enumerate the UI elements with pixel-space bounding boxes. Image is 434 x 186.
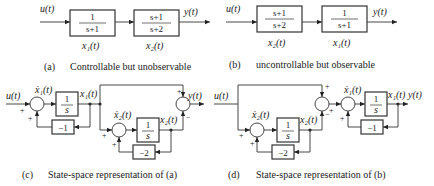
diagram-d: u(t) + + ẋ₂(t) 1 s x₂(t) − −2 +: [214, 82, 423, 181]
svg-text:+: +: [102, 131, 107, 140]
x1dot-label: ẋ₁(t): [34, 84, 53, 96]
block2-numerator: s+1: [150, 12, 163, 22]
caption-tag-d: (d): [228, 169, 240, 181]
svg-text:+: +: [239, 131, 244, 140]
state-label-x1: x₁(t): [332, 37, 351, 49]
output-label-c: y(t): [187, 90, 203, 102]
block2-numerator: 1: [342, 8, 347, 18]
diagram-canvas: u(t) 1 s+1 x₁(t) s+1 s+2 x₂(t) y(t) (a) …: [0, 0, 434, 186]
svg-text:+: +: [325, 82, 330, 91]
input-summing-junction: [315, 97, 329, 111]
svg-text:s: s: [286, 130, 290, 141]
block2-denominator: s+1: [338, 20, 351, 30]
output-label-b: y(t): [372, 6, 388, 18]
svg-text:s: s: [65, 104, 69, 115]
caption-tag-b: (b): [229, 59, 241, 71]
svg-text:+: +: [340, 114, 345, 123]
svg-text:+: +: [112, 140, 117, 149]
block1-numerator: 1: [90, 12, 95, 22]
diagram-b: u(t) s+1 s+2 x₂(t) 1 s+1 x₁(t) y(t) (b) …: [226, 3, 397, 71]
output-label-d: y(t): [407, 89, 423, 101]
svg-text:1: 1: [146, 120, 151, 130]
summing-junction-1: [30, 97, 44, 111]
caption-tag-a: (a): [44, 61, 55, 73]
x1dot-label: ẋ₁(t): [343, 84, 362, 96]
svg-text:s: s: [374, 104, 378, 115]
x2dot-label: ẋ₂(t): [113, 109, 132, 121]
x2dot-label: ẋ₂(t): [251, 109, 270, 121]
input-label-c: u(t): [6, 90, 21, 102]
diagram-a: u(t) 1 s+1 x₁(t) s+1 s+2 x₂(t) y(t) (a) …: [40, 3, 210, 73]
caption-tag-c: (c): [22, 169, 33, 181]
svg-text:+: +: [20, 106, 25, 115]
svg-text:−: −: [186, 113, 191, 122]
svg-text:−1: −1: [367, 123, 377, 133]
svg-text:+: +: [250, 139, 255, 148]
x2-label: x₂(t): [299, 114, 318, 126]
svg-text:+: +: [177, 87, 182, 96]
summing-junction-2: [250, 123, 264, 137]
input-label-a: u(t): [40, 3, 55, 15]
svg-text:−1: −1: [58, 123, 68, 133]
svg-text:1: 1: [286, 120, 291, 130]
svg-text:1: 1: [374, 94, 379, 104]
input-label-b: u(t): [226, 3, 241, 15]
caption-d: State-space representation of (b): [256, 169, 386, 181]
svg-text:−2: −2: [278, 148, 288, 158]
svg-text:+: +: [28, 114, 33, 123]
caption-c: State-space representation of (a): [48, 169, 177, 181]
svg-text:s: s: [146, 130, 150, 141]
block2-denominator: s+2: [150, 24, 163, 34]
output-label-a: y(t): [183, 6, 199, 18]
block1-numerator: s+1: [273, 8, 286, 18]
block1-denominator: s+2: [273, 20, 286, 30]
state-label-x2: x₂(t): [145, 40, 164, 52]
block1-denominator: s+1: [86, 24, 99, 34]
svg-text:−2: −2: [139, 148, 149, 158]
state-label-x2: x₂(t): [267, 37, 286, 49]
input-label-d: u(t): [214, 90, 229, 102]
state-label-x1: x₁(t): [81, 40, 100, 52]
svg-text:1: 1: [65, 94, 70, 104]
caption-a: Controllable but unobservable: [70, 61, 192, 72]
svg-text:+: +: [329, 106, 334, 115]
summing-junction-2: [112, 123, 126, 137]
diagram-c: u(t) + ẋ₁(t) 1 s x₁(t) −1 + + + ẋ₂(: [6, 84, 204, 181]
x1-label: x₁(t): [79, 88, 98, 100]
x1-label: x₁(t): [387, 89, 406, 101]
summing-junction-1: [341, 97, 355, 111]
caption-b: uncontrollable but observable: [256, 59, 375, 70]
x2-label: x₂(t): [159, 114, 178, 126]
